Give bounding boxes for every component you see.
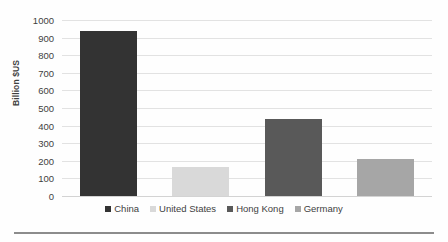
- y-tick-label-600: 600: [38, 85, 54, 96]
- bar-united-states[interactable]: [172, 167, 229, 196]
- y-tick-label-100: 100: [38, 173, 54, 184]
- footer-divider: [14, 232, 434, 234]
- y-tick-label-900: 900: [38, 32, 54, 43]
- y-tick-label-500: 500: [38, 103, 54, 114]
- chart-plot-area: Billion $US 0100200300400500600700800900…: [0, 0, 448, 200]
- bar-germany[interactable]: [357, 159, 414, 196]
- legend-label-china: China: [114, 204, 139, 214]
- legend-item-china[interactable]: China: [105, 204, 139, 214]
- legend-label-hong-kong: Hong Kong: [236, 204, 284, 214]
- y-tick-label-300: 300: [38, 138, 54, 149]
- y-axis-tick-labels: 01002003004005006007008009001000: [0, 20, 58, 196]
- plot-canvas: [62, 20, 432, 196]
- y-tick-label-800: 800: [38, 50, 54, 61]
- y-tick-label-0: 0: [49, 191, 54, 202]
- legend-swatch-china: [105, 206, 111, 212]
- bar-hong-kong[interactable]: [265, 119, 322, 196]
- legend-swatch-germany: [295, 206, 301, 212]
- legend-item-germany[interactable]: Germany: [295, 204, 343, 214]
- y-tick-label-200: 200: [38, 155, 54, 166]
- legend-label-united-states: United States: [159, 204, 216, 214]
- legend-item-united-states[interactable]: United States: [150, 204, 216, 214]
- legend-label-germany: Germany: [304, 204, 343, 214]
- bar-china[interactable]: [80, 31, 137, 196]
- legend-swatch-hong-kong: [227, 206, 233, 212]
- legend-item-hong-kong[interactable]: Hong Kong: [227, 204, 284, 214]
- bar-group: [62, 20, 432, 196]
- y-tick-label-700: 700: [38, 67, 54, 78]
- y-tick-label-400: 400: [38, 120, 54, 131]
- y-tick-label-1000: 1000: [33, 15, 54, 26]
- gridline-0: [62, 196, 432, 197]
- chart-legend: ChinaUnited StatesHong KongGermany: [0, 204, 448, 214]
- bar-chart-figure: Billion $US 0100200300400500600700800900…: [0, 0, 448, 242]
- legend-swatch-united-states: [150, 206, 156, 212]
